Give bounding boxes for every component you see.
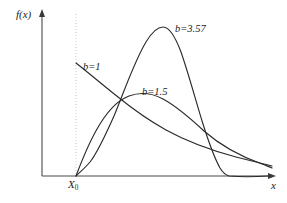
curve-b-1 [76,63,272,166]
weibull-density-figure: f(x) x X0 b=1 b=1.5 b=3.57 [0,0,287,203]
curve-label-b-3-57: b=3.57 [175,24,206,35]
y-axis-label: f(x) [16,9,31,20]
curve-label-b-1-5: b=1.5 [142,87,167,98]
curve-label-b-1: b=1 [83,62,101,73]
x0-threshold-label: X0 [68,179,78,192]
plot-canvas [0,0,287,203]
y-axis-arrow-icon [39,9,45,17]
x-axis-label: x [271,180,276,191]
